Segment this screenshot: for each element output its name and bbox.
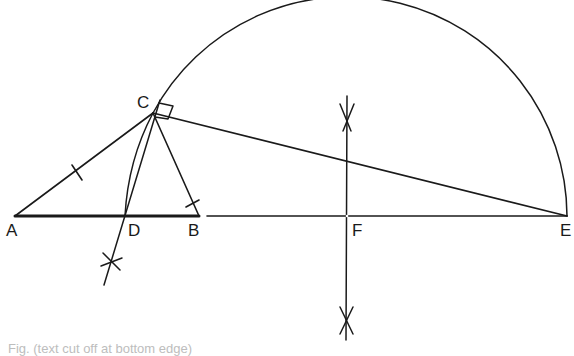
semicircle-arc bbox=[153, 0, 567, 216]
label-E: E bbox=[560, 222, 571, 239]
segment-CE bbox=[153, 113, 567, 216]
segment-CB bbox=[153, 113, 199, 216]
point-F-marker bbox=[346, 215, 349, 218]
label-B: B bbox=[188, 222, 199, 239]
label-A: A bbox=[6, 222, 17, 239]
label-D: D bbox=[128, 222, 140, 239]
bisector-top-mark-b bbox=[343, 104, 354, 131]
figure-caption: Fig. (text cut off at bottom edge) bbox=[8, 341, 192, 356]
label-F: F bbox=[352, 222, 362, 239]
perpendicular-bisector bbox=[346, 96, 347, 340]
label-C: C bbox=[137, 94, 149, 111]
bisector-top-mark-a bbox=[340, 104, 351, 131]
